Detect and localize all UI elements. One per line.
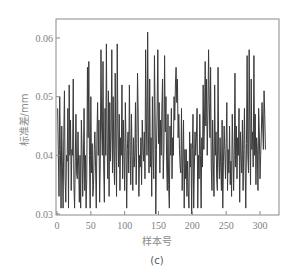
data-series-line (58, 32, 266, 214)
y-axis-label: 标准差/mm (18, 94, 30, 147)
x-axis: 050100150200250300 (55, 211, 268, 231)
x-tick-label: 50 (86, 220, 96, 231)
x-tick-label: 250 (219, 220, 234, 231)
y-tick-label: 0.06 (36, 33, 54, 44)
y-tick-label: 0.04 (36, 150, 54, 161)
y-tick-label: 0.03 (36, 209, 54, 220)
x-tick-label: 300 (253, 220, 268, 231)
plot-area (58, 32, 266, 214)
x-tick-label: 100 (117, 220, 132, 231)
line-chart: 0.030.040.050.06 050100150200250300 样本号 … (0, 0, 295, 277)
y-tick-label: 0.05 (36, 91, 54, 102)
x-tick-label: 150 (151, 220, 166, 231)
x-axis-label: 样本号 (142, 235, 172, 247)
x-tick-label: 0 (55, 220, 60, 231)
x-tick-label: 200 (185, 220, 200, 231)
figure-caption: (c) (150, 255, 163, 266)
